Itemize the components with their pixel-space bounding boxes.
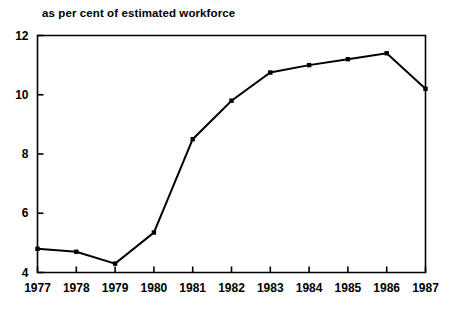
data-point-marker: [152, 230, 156, 234]
y-tick-label: 6: [22, 206, 29, 220]
data-series: [38, 53, 426, 263]
x-axis: 1977197819791980198119821983198419851986…: [24, 267, 439, 295]
y-axis: 4681012: [15, 29, 43, 280]
data-point-marker: [268, 70, 272, 74]
data-point-marker: [191, 137, 195, 141]
y-tick-label: 12: [15, 29, 29, 43]
x-tick-label: 1977: [24, 281, 51, 295]
x-tick-label: 1984: [296, 281, 323, 295]
x-tick-label: 1979: [102, 281, 129, 295]
data-point-marker: [385, 51, 389, 55]
x-tick-label: 1978: [63, 281, 90, 295]
x-tick-label: 1981: [179, 281, 206, 295]
y-tick-label: 10: [15, 88, 29, 102]
data-point-marker: [74, 250, 78, 254]
data-point-marker: [423, 87, 427, 91]
y-tick-label: 4: [22, 266, 29, 280]
data-point-marker: [113, 261, 117, 265]
data-markers: [35, 51, 427, 266]
x-tick-label: 1986: [373, 281, 400, 295]
data-point-marker: [346, 57, 350, 61]
chart-container: as per cent of estimated workforce 46810…: [0, 0, 457, 312]
line-chart-plot: 4681012 19771978197919801981198219831984…: [0, 0, 457, 312]
x-tick-label: 1983: [257, 281, 284, 295]
x-tick-label: 1982: [218, 281, 245, 295]
data-point-marker: [307, 63, 311, 67]
y-tick-label: 8: [22, 147, 29, 161]
x-tick-label: 1980: [141, 281, 168, 295]
data-point-marker: [229, 98, 233, 102]
x-tick-label: 1985: [335, 281, 362, 295]
x-tick-label: 1987: [412, 281, 439, 295]
data-point-marker: [35, 247, 39, 251]
plot-frame: [38, 36, 426, 273]
